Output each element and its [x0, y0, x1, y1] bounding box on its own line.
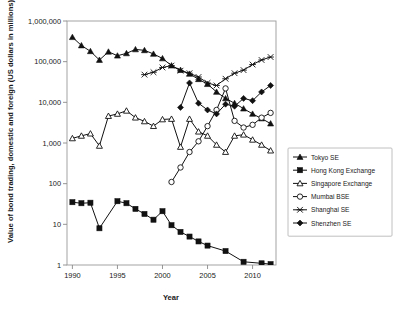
data-point-filled-square-marker — [241, 259, 246, 264]
y-axis-title: Value of bond trading, domestic and fore… — [6, 0, 15, 243]
data-point-filled-square-marker — [178, 229, 183, 234]
legend-item-label: Singapore Exchange — [311, 180, 373, 188]
x-tick-label: 2010 — [244, 271, 260, 280]
legend-item-label: Mumbai BSE — [311, 193, 350, 200]
x-tick-label: 1990 — [64, 271, 80, 280]
data-point-open-circle-marker — [268, 110, 273, 115]
data-point-open-circle-marker — [241, 125, 246, 130]
y-tick-label: 100,000 — [34, 57, 61, 66]
y-tick-label: 10 — [53, 220, 61, 229]
data-point-open-circle-marker — [178, 165, 183, 170]
y-tick-label: 100 — [49, 179, 61, 188]
data-point-filled-square-marker — [142, 211, 147, 216]
data-point-filled-square-marker — [169, 223, 174, 228]
x-axis-title: Year — [163, 293, 179, 302]
data-point-filled-square-marker — [133, 206, 138, 211]
y-tick-label: 10,000 — [38, 98, 61, 107]
legend-item-mumbai-bse[interactable]: Mumbai BSE — [293, 193, 350, 200]
x-axis-title-label: Year — [163, 293, 179, 302]
data-point-filled-square-marker — [124, 201, 129, 206]
data-point-open-circle-marker — [205, 123, 210, 128]
y-tick-label: 1 — [57, 261, 61, 270]
data-point-open-circle-marker — [259, 115, 264, 120]
data-point-filled-square-marker — [151, 217, 156, 222]
legend-item-label: Shenzhen SE — [311, 220, 352, 227]
data-point-filled-square-marker — [160, 209, 165, 214]
legend-item-label: Tokyo SE — [311, 154, 339, 162]
data-point-open-circle-marker — [169, 179, 174, 184]
x-tick-label: 2000 — [154, 271, 170, 280]
data-point-open-circle-marker — [297, 194, 302, 199]
legend-item-label: Shanghai SE — [311, 206, 350, 214]
data-point-filled-square-marker — [205, 243, 210, 248]
chart-legend: Tokyo SEHong Kong ExchangeSingapore Exch… — [288, 148, 392, 236]
y-tick-label: 1,000,000 — [28, 17, 61, 26]
data-point-open-circle-marker — [223, 86, 228, 91]
data-point-filled-square-marker — [88, 200, 93, 205]
legend-item-label: Hong Kong Exchange — [311, 167, 375, 175]
data-point-open-circle-marker — [250, 122, 255, 127]
data-point-open-circle-marker — [232, 118, 237, 123]
data-point-filled-square-marker — [223, 249, 228, 254]
x-tick-label: 2005 — [199, 271, 215, 280]
data-point-filled-square-marker — [97, 226, 102, 231]
data-point-filled-square-marker — [115, 199, 120, 204]
data-point-filled-square-marker — [187, 234, 192, 239]
data-point-filled-square-marker — [297, 168, 302, 173]
data-point-filled-square-marker — [196, 239, 201, 244]
y-axis-title-label: Value of bond trading, domestic and fore… — [6, 0, 15, 243]
data-point-filled-square-marker — [79, 201, 84, 206]
data-point-open-circle-marker — [187, 149, 192, 154]
data-point-open-circle-marker — [196, 139, 201, 144]
bond-trading-value-chart: Value of bond trading, domestic and fore… — [0, 0, 394, 317]
chart-canvas: Value of bond trading, domestic and fore… — [0, 0, 394, 317]
x-tick-label: 1995 — [109, 271, 125, 280]
data-point-filled-square-marker — [70, 200, 75, 205]
y-tick-label: 1,000 — [43, 139, 62, 148]
